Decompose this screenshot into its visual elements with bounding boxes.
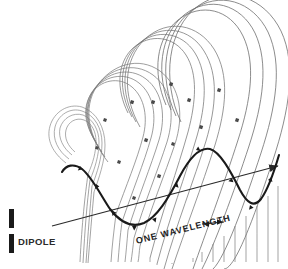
- field-intensity-wave-curve: [62, 149, 279, 225]
- field-line-tails: [80, 174, 278, 265]
- field-loop-group-second: [86, 63, 180, 246]
- dipole-label: DIPOLE: [18, 236, 56, 247]
- field-line-canvas: [0, 0, 288, 269]
- dipole-radiation-diagram: DIPOLE ONE WAVELENGTH: [0, 0, 288, 269]
- dipole-bar-bottom: [9, 234, 14, 253]
- dipole-bar-top: [9, 209, 14, 228]
- wave-direction-arrowheads: [78, 147, 273, 231]
